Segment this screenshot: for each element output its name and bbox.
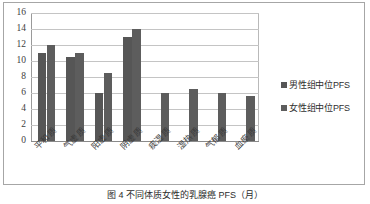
legend-swatch-icon: [281, 82, 287, 88]
bar-group: [203, 13, 232, 141]
chart-legend: 男性组中位PFS女性组中位PFS: [281, 78, 367, 124]
legend-swatch-icon: [281, 105, 287, 111]
x-axis-labels: 平和质气虚质阳虚质阴虚质痰湿质湿热质气郁质血瘀质: [31, 143, 259, 189]
bars-layer: [32, 13, 258, 141]
legend-item[interactable]: 男性组中位PFS: [281, 78, 367, 91]
y-axis-tick-label: 10: [0, 56, 26, 66]
bar: [132, 29, 141, 141]
bar-group: [232, 13, 261, 141]
y-axis-tick-label: 14: [0, 24, 26, 34]
bar-group: [118, 13, 147, 141]
y-axis-tick-label: 2: [0, 120, 26, 130]
y-axis: 1614121086420: [0, 13, 29, 142]
figure-caption: 图 4 不同体质女性的乳腺癌 PFS（月）: [0, 188, 370, 204]
y-axis-tick-label: 8: [0, 72, 26, 82]
y-axis-tick-label: 4: [0, 104, 26, 114]
legend-item[interactable]: 女性组中位PFS: [281, 101, 367, 114]
chart-container: 1614121086420 平和质气虚质阳虚质阴虚质痰湿质湿热质气郁质血瘀质 男…: [0, 0, 370, 204]
bar-group: [175, 13, 204, 141]
y-axis-tick-label: 0: [0, 136, 26, 146]
legend-label: 男性组中位PFS: [289, 78, 350, 91]
legend-label: 女性组中位PFS: [289, 101, 350, 114]
bar-group: [89, 13, 118, 141]
y-axis-tick-label: 16: [0, 8, 26, 18]
bar: [38, 53, 47, 141]
plot-area: [31, 13, 259, 142]
bar-group: [61, 13, 90, 141]
bar: [66, 57, 75, 141]
bar: [123, 37, 132, 141]
y-axis-tick-label: 6: [0, 88, 26, 98]
bar-group: [32, 13, 61, 141]
y-axis-tick-label: 12: [0, 40, 26, 50]
bar-group: [146, 13, 175, 141]
